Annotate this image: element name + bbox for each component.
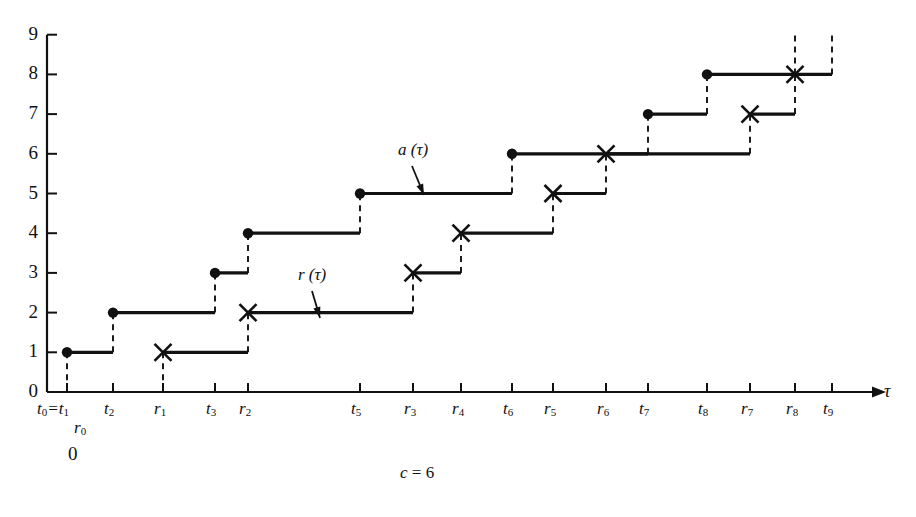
- y-tick-label-6: 6: [16, 142, 38, 164]
- curve-label-arrivals: a (τ): [398, 140, 428, 160]
- chart-canvas: [0, 0, 916, 517]
- y-tick-label-5: 5: [16, 182, 38, 204]
- y-tick-label-2: 2: [16, 301, 38, 323]
- x-tick-label-r6: r6: [597, 399, 609, 419]
- y-tick-label-3: 3: [16, 261, 38, 283]
- x-tick-label-r5: r5: [544, 399, 556, 419]
- x-tick-label-t9: t9: [823, 399, 833, 419]
- dashed-droplines-group: [67, 35, 832, 392]
- x-tick-label-t8: t8: [698, 399, 708, 419]
- arrival-curve-marker-7: [643, 109, 653, 119]
- arrival-curve-marker-4: [243, 228, 253, 238]
- x-tick-label-r7: r7: [741, 399, 753, 419]
- x-tick-label-r1: r1: [154, 399, 166, 419]
- arrival-curve-marker-6: [507, 149, 517, 159]
- x-tick-label-t0t1: t0=t1: [37, 399, 69, 419]
- x-tick-label-r8: r8: [786, 399, 798, 419]
- y-tick-label-9: 9: [16, 23, 38, 45]
- arrival-curve-marker-8: [702, 69, 712, 79]
- arrival-curve-marker-5: [355, 188, 365, 198]
- curve-label-departures: r (τ): [298, 265, 326, 285]
- x-tick-label-t6: t6: [503, 399, 513, 419]
- x-tick-label-t3: t3: [206, 399, 216, 419]
- arrival-curve-marker-2: [108, 307, 118, 317]
- x-tick-label-r2: r2: [239, 399, 251, 419]
- x-tick-label-r4: r4: [452, 399, 464, 419]
- y-tick-label-1: 1: [16, 340, 38, 362]
- series-group: [62, 66, 832, 361]
- y-tick-label-4: 4: [16, 221, 38, 243]
- x-tick-label-t2: t2: [104, 399, 114, 419]
- axes-group: [47, 35, 886, 398]
- arrival-curve-marker-3: [210, 268, 220, 278]
- x-axis-name: τ: [884, 381, 890, 402]
- x-label-r0: r0: [74, 418, 86, 438]
- x-tick-label-r3: r3: [404, 399, 416, 419]
- x-tick-label-t5: t5: [351, 399, 361, 419]
- annotation-arrows-group: [312, 166, 424, 318]
- origin-zero-label: 0: [68, 443, 78, 465]
- x-tick-label-t7: t7: [639, 399, 649, 419]
- figure-caption: c = 6: [400, 463, 434, 483]
- y-tick-label-8: 8: [16, 62, 38, 84]
- y-tick-label-7: 7: [16, 102, 38, 124]
- arrival-curve-marker-1: [62, 347, 72, 357]
- chart-figure: 0123456789 t0=t1t2r1t3r2t5r3r4t6r5r6t7t8…: [0, 0, 916, 517]
- y-tick-label-0: 0: [16, 380, 38, 402]
